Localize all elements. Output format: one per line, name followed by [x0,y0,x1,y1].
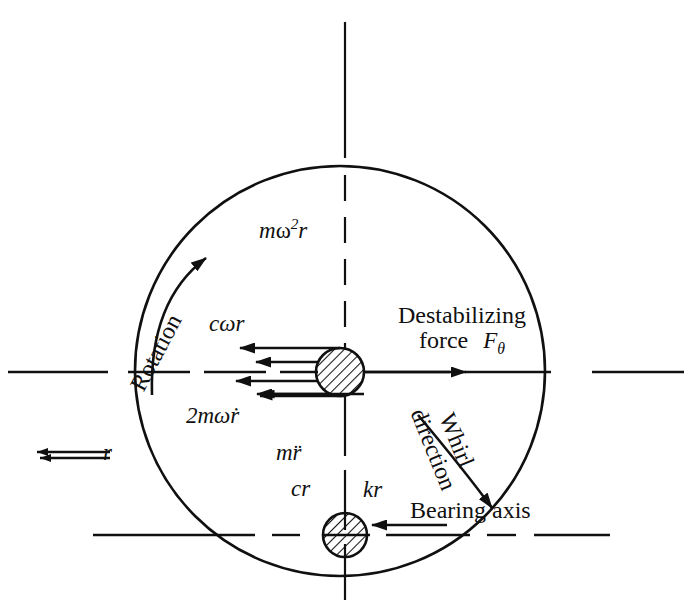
destabilizing-subscript-theta: θ [497,340,505,357]
radius-dimension [37,452,110,458]
label-inertia: mr̈ [276,441,302,465]
rotor-whirl-diagram: mω2r cωr 2mωṙ mr̈ cr kr Destabilizing f… [0,0,689,615]
diagram-canvas [0,0,689,615]
label-damping-tangential: cωr [209,312,244,336]
destabilizing-symbol-F: F [483,328,497,353]
destabilizing-line-2: force Fθ [398,328,526,357]
label-radius-dimension: r [103,441,112,465]
journal-disc [316,348,364,396]
destabilizing-word-force: force [419,327,468,353]
label-bearing-axis: Bearing axis [410,498,531,523]
label-centrifugal-force: mω2r [259,216,307,243]
destabilizing-line-1: Destabilizing [398,303,526,328]
centrifugal-m: m [259,218,276,243]
label-destabilizing-force: Destabilizing force Fθ [398,303,526,358]
label-stiffness: kr [363,478,382,502]
label-coriolis: 2mωṙ [186,404,239,428]
centrifugal-omega: ω [276,218,291,243]
label-damping-radial: cr [291,477,310,501]
bearing-disc [323,513,367,557]
centrifugal-r: r [298,218,307,243]
